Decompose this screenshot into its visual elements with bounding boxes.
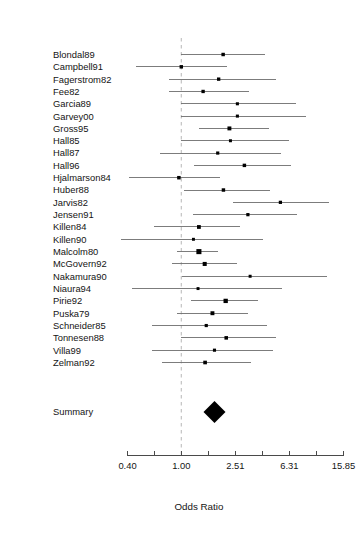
study-label: Fagerstrom82	[53, 74, 111, 85]
study-label: McGovern92	[53, 258, 107, 269]
effect-estimate-marker	[222, 188, 225, 191]
x-axis-title: Odds Ratio	[174, 501, 224, 512]
study-label: Garcia89	[53, 98, 91, 109]
effect-estimate-marker	[201, 90, 204, 93]
axis-tick-label: 15.85	[332, 460, 355, 471]
effect-estimate-marker	[180, 65, 183, 68]
summary-label: Summary	[53, 406, 93, 417]
study-label: Gross95	[53, 123, 88, 134]
study-label: Hjalmarson84	[53, 172, 111, 183]
study-label: Hall96	[53, 160, 80, 171]
study-label: Killen84	[53, 221, 86, 232]
effect-estimate-marker	[236, 102, 239, 105]
axis-tick-label: 2.51	[226, 460, 244, 471]
study-label: Zelman92	[53, 357, 95, 368]
study-label: Huber88	[53, 184, 89, 195]
study-label: Garvey00	[53, 111, 94, 122]
effect-estimate-marker	[203, 262, 207, 266]
axis-tick-label: 6.31	[280, 460, 298, 471]
axis-tick-label: 1.00	[172, 460, 190, 471]
study-label: Jarvis82	[53, 197, 88, 208]
effect-estimate-marker	[246, 213, 249, 216]
study-label: Hall85	[53, 135, 80, 146]
study-label: Schneider85	[53, 320, 106, 331]
study-label: Hall87	[53, 147, 80, 158]
axis-tick-label: 0.40	[118, 460, 136, 471]
effect-estimate-marker	[224, 299, 228, 303]
effect-estimate-marker	[197, 225, 201, 229]
study-label: Killen90	[53, 234, 86, 245]
effect-estimate-marker	[236, 115, 239, 118]
effect-estimate-marker	[229, 139, 232, 142]
study-label: Campbell91	[53, 61, 103, 72]
study-label: Puska79	[53, 308, 89, 319]
effect-estimate-marker	[243, 164, 246, 167]
study-label: Jensen91	[53, 209, 94, 220]
effect-estimate-marker	[221, 53, 224, 56]
study-label: Villa99	[53, 345, 81, 356]
study-label: Niaura94	[53, 283, 91, 294]
effect-estimate-marker	[249, 275, 252, 278]
study-label: Fee82	[53, 86, 80, 97]
study-label: Malcolm80	[53, 246, 98, 257]
effect-estimate-marker	[196, 249, 201, 254]
study-label: Nakamura90	[53, 271, 107, 282]
forest-plot: Blondal89Campbell91Fagerstrom82Fee82Garc…	[0, 0, 358, 538]
effect-estimate-marker	[197, 287, 200, 290]
study-label: Blondal89	[53, 49, 95, 60]
study-label: Tonnesen88	[53, 332, 104, 343]
effect-estimate-marker	[192, 238, 195, 241]
effect-estimate-marker	[227, 126, 231, 130]
effect-estimate-marker	[210, 311, 214, 315]
effect-estimate-marker	[213, 349, 216, 352]
effect-estimate-marker	[217, 77, 220, 80]
effect-estimate-marker	[216, 151, 219, 154]
effect-estimate-marker	[224, 336, 228, 340]
effect-estimate-marker	[203, 361, 207, 365]
effect-estimate-marker	[205, 324, 208, 327]
effect-estimate-marker	[279, 201, 282, 204]
effect-estimate-marker	[177, 176, 181, 180]
study-label: Pirie92	[53, 295, 82, 306]
